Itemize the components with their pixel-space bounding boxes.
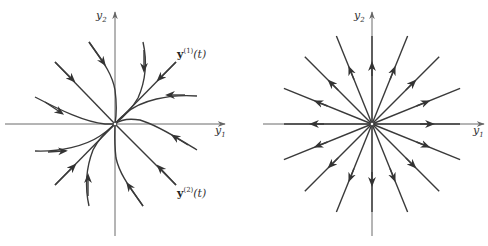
- arrow-icon: [160, 62, 176, 78]
- arrow-icon: [55, 62, 72, 79]
- trajectory-curve: [35, 97, 115, 124]
- eigen-solution-label-2: y(2)(t): [176, 186, 206, 200]
- arrow-icon: [45, 102, 60, 112]
- arrow-icon: [89, 42, 103, 62]
- arrow-icon: [390, 70, 394, 79]
- y1-axis-label: y1: [214, 124, 226, 139]
- trajectory-ray: [336, 36, 372, 124]
- trajectory-ray: [336, 124, 372, 212]
- left-phase-portrait: y2 y1: [5, 9, 226, 236]
- trajectory-ray: [372, 36, 408, 124]
- trajectory-curve: [115, 124, 143, 206]
- y2-axis-label: y2: [353, 9, 365, 24]
- arrow-icon: [417, 102, 426, 106]
- arrow-icon: [350, 70, 354, 79]
- arrow-icon: [175, 137, 188, 145]
- arrow-icon: [331, 83, 338, 90]
- trajectory-ray: [284, 88, 372, 124]
- y2-axis-label: y2: [95, 9, 107, 24]
- arrow-icon: [406, 158, 413, 165]
- arrow-icon: [331, 158, 338, 165]
- phase-portraits: y2 y1: [0, 0, 488, 246]
- trajectory-ray: [372, 88, 460, 124]
- y1-axis-label: y1: [472, 124, 484, 139]
- arrow-icon: [406, 83, 413, 90]
- trajectory-ray: [372, 57, 439, 124]
- trajectory-ray: [372, 124, 408, 212]
- arrow-icon: [160, 168, 176, 185]
- trajectory-ray: [284, 124, 372, 160]
- arrow-icon: [129, 186, 143, 206]
- right-phase-portrait: y2 y1: [263, 9, 484, 236]
- arrow-icon: [318, 102, 327, 106]
- equilibrium-point: [370, 122, 374, 126]
- trajectory-ray: [305, 124, 372, 191]
- trajectory-ray: [372, 124, 460, 160]
- arrow-icon: [55, 167, 73, 185]
- trajectory-ray: [372, 124, 439, 191]
- trajectory-ray: [305, 57, 372, 124]
- arrow-icon: [318, 142, 327, 146]
- trajectory-curve: [35, 124, 115, 151]
- arrow-icon: [48, 151, 63, 152]
- eigen-solution-label-1: y(1)(t): [176, 47, 206, 61]
- equilibrium-point: [113, 122, 117, 126]
- arrow-icon: [417, 142, 426, 146]
- arrow-icon: [390, 169, 394, 178]
- trajectory-curve: [115, 42, 145, 124]
- arrow-icon: [350, 169, 354, 178]
